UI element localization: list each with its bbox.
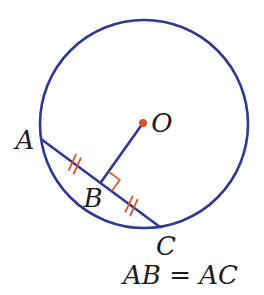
center-dot — [139, 119, 147, 127]
tick-mark-ab-2 — [74, 158, 81, 173]
right-angle-mark — [109, 171, 120, 191]
segment-OB — [100, 123, 143, 183]
point-label-B: B — [82, 183, 102, 213]
geometry-diagram: ABCO AB = AC — [0, 0, 264, 295]
equation-caption: AB = AC — [123, 261, 238, 289]
tick-mark-ab-1 — [69, 155, 76, 170]
point-label-O: O — [151, 108, 172, 138]
geometry-figure: ABCO — [0, 0, 264, 295]
tick-mark-bc-1 — [125, 196, 132, 211]
tick-mark-bc-2 — [130, 200, 137, 215]
point-label-C: C — [156, 231, 176, 261]
point-label-A: A — [14, 125, 35, 155]
